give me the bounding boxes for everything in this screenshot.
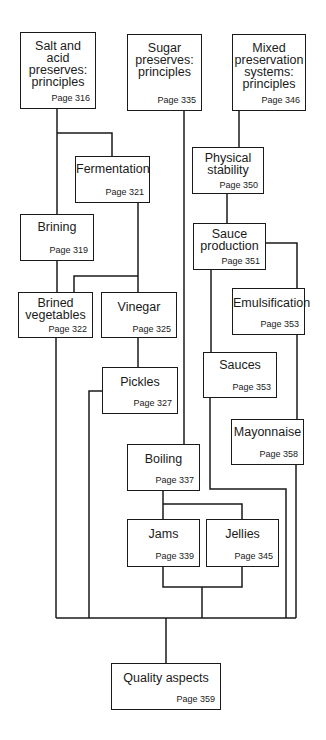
node-mixed-preservation: Mixed preservation systems: principles P… — [232, 34, 306, 111]
node-mayonnaise: Mayonnaise Page 358 — [231, 419, 304, 465]
node-title: Sauce production — [194, 228, 265, 252]
node-title: Mayonnaise — [232, 426, 303, 438]
node-page: Page 358 — [259, 449, 298, 459]
node-page: Page 359 — [176, 694, 215, 704]
node-sauces: Sauces Page 353 — [203, 352, 277, 398]
node-brining: Brining Page 319 — [20, 214, 94, 261]
node-page: Page 345 — [234, 551, 273, 561]
node-sauce-production: Sauce production Page 351 — [193, 223, 266, 270]
node-title: Fermentation — [76, 163, 149, 175]
node-jams: Jams Page 339 — [127, 519, 200, 567]
node-salt-acid-preserves: Salt and acid preserves: principles Page… — [20, 32, 96, 109]
node-title: Brining — [21, 221, 93, 233]
node-quality-aspects: Quality aspects Page 359 — [111, 663, 221, 710]
node-page: Page 321 — [105, 187, 144, 197]
node-pickles: Pickles Page 327 — [102, 367, 178, 414]
node-jellies: Jellies Page 345 — [206, 519, 279, 567]
node-title: Sauces — [204, 359, 276, 371]
node-title: Pickles — [103, 376, 177, 388]
node-vinegar: Vinegar Page 325 — [101, 292, 177, 338]
node-physical-stability: Physical stability Page 350 — [192, 147, 264, 194]
node-title: Jams — [128, 528, 199, 540]
node-page: Page 319 — [49, 245, 88, 255]
node-page: Page 335 — [157, 95, 196, 105]
node-title: Jellies — [207, 528, 278, 540]
node-page: Page 327 — [133, 398, 172, 408]
node-page: Page 322 — [48, 324, 87, 334]
node-title: Salt and acid preserves: principles — [21, 40, 95, 88]
node-page: Page 339 — [155, 551, 194, 561]
node-page: Page 346 — [261, 95, 300, 105]
node-page: Page 353 — [260, 319, 299, 329]
node-title: Emulsification — [233, 297, 304, 309]
node-page: Page 351 — [221, 256, 260, 266]
node-title: Sugar preserves: principles — [128, 42, 201, 78]
node-fermentation: Fermentation Page 321 — [75, 156, 150, 203]
node-title: Quality aspects — [112, 672, 220, 684]
node-brined-vegetables: Brined vegetables Page 322 — [18, 292, 93, 338]
node-title: Mixed preservation systems: principles — [233, 42, 305, 90]
node-title: Brined vegetables — [19, 297, 92, 321]
flowchart: Salt and acid preserves: principles Page… — [0, 0, 326, 740]
node-sugar-preserves: Sugar preserves: principles Page 335 — [127, 34, 202, 111]
node-title: Vinegar — [102, 301, 176, 313]
node-page: Page 325 — [132, 324, 171, 334]
node-page: Page 350 — [219, 180, 258, 190]
node-boiling: Boiling Page 337 — [127, 444, 200, 491]
node-page: Page 316 — [51, 93, 90, 103]
node-page: Page 353 — [232, 382, 271, 392]
node-title: Physical stability — [193, 152, 263, 176]
node-emulsification: Emulsification Page 353 — [232, 288, 305, 335]
node-title: Boiling — [128, 453, 199, 465]
node-page: Page 337 — [155, 475, 194, 485]
